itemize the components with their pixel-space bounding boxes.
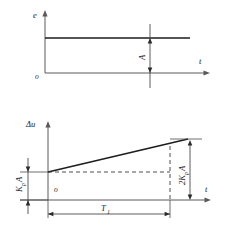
top-origin-label: o — [35, 72, 39, 81]
bottom-kpa-label-sub: p — [20, 183, 26, 187]
top-y-axis-label: e — [33, 10, 37, 20]
top-amplitude-arrowhead-upper — [148, 38, 153, 43]
bottom-kpa-label-group: K p A — [14, 176, 26, 193]
bottom-origin-label: o — [54, 185, 58, 194]
bottom-kpa-arrowhead-lower — [26, 200, 31, 205]
bottom-kpa-label-tail: A — [14, 176, 24, 183]
bottom-kpa-arrowhead-upper — [26, 167, 31, 172]
bottom-t1-label-sub: 1 — [107, 209, 110, 215]
bottom-x-axis-arrowhead — [205, 197, 212, 202]
bottom-t1-arrowhead-left — [48, 212, 53, 217]
bottom-2kpa-arrowhead-lower — [188, 195, 193, 200]
top-amplitude-arrowhead-lower — [148, 68, 153, 73]
top-chart-group: e t o A — [33, 10, 210, 88]
bottom-y-axis-arrowhead — [45, 121, 50, 128]
bottom-y-axis-label-group: Δu — [25, 119, 35, 129]
bottom-ramp-line — [48, 139, 188, 172]
top-x-axis-label: t — [199, 56, 202, 66]
top-amplitude-label: A — [137, 54, 147, 61]
bottom-t1-label-group: T 1 — [101, 203, 110, 215]
bottom-2kpa-arrowhead-upper — [188, 140, 193, 145]
bottom-2kpa-label-group: 2K p A — [177, 165, 189, 185]
top-amplitude-label-group: A — [137, 54, 147, 61]
bottom-2kpa-label-sub: p — [183, 172, 189, 176]
bottom-x-axis-label: t — [205, 184, 208, 194]
top-x-axis-arrowhead — [204, 70, 211, 75]
bottom-y-axis-label: Δu — [25, 119, 35, 129]
bottom-t1-arrowhead-right — [165, 212, 170, 217]
top-y-axis-arrowhead — [42, 10, 47, 17]
diagram-canvas: e t o A — [0, 0, 231, 240]
bottom-2kpa-label-tail: A — [177, 165, 187, 172]
figure-root: e t o A — [0, 0, 231, 240]
bottom-chart-group: Δu t o K p A 2K p A T 1 — [14, 119, 211, 218]
